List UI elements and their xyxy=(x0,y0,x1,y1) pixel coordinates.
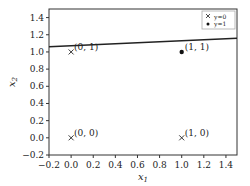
point-annotation: (1, 0) xyxy=(185,128,209,138)
x-marker xyxy=(69,49,74,54)
y-tick-label: 0.2 xyxy=(30,116,44,126)
x-tick-label: 0.2 xyxy=(86,160,100,170)
y-tick-label: 0.4 xyxy=(30,98,45,108)
x-marker xyxy=(69,135,74,140)
x-tick-label: 1.2 xyxy=(197,160,211,170)
y-tick-label: −0.2 xyxy=(22,150,44,160)
dot-marker xyxy=(180,50,184,54)
x-tick-label: 0.8 xyxy=(152,160,167,170)
point-annotation: (0, 0) xyxy=(74,128,98,138)
x-marker xyxy=(179,135,184,140)
y-tick-label: 0.6 xyxy=(30,81,45,91)
y-axis-label: x2 xyxy=(6,76,19,87)
x-tick-label: 1.4 xyxy=(219,160,234,170)
scatter-chart: −0.20.00.20.40.60.81.01.21.4−0.20.00.20.… xyxy=(0,0,250,186)
x-tick-label: 0.6 xyxy=(130,160,145,170)
legend-label-y1: y=1 xyxy=(213,20,226,28)
y-tick-label: 1.2 xyxy=(30,30,44,40)
x-tick-label: −0.2 xyxy=(38,160,60,170)
point-annotation: (0, 1) xyxy=(74,42,98,52)
x-tick-label: 1.0 xyxy=(175,160,190,170)
y-tick-label: 1.0 xyxy=(30,47,45,57)
x-tick-label: 0.4 xyxy=(108,160,123,170)
x-tick-label: 0.0 xyxy=(64,160,79,170)
y-tick-label: 0.0 xyxy=(30,133,45,143)
point-annotation: (1, 1) xyxy=(185,42,209,52)
y-tick-label: 0.8 xyxy=(30,64,45,74)
x-axis-label: x1 xyxy=(138,171,148,184)
legend-dot-marker xyxy=(207,23,210,26)
y-tick-label: 1.4 xyxy=(30,13,45,23)
